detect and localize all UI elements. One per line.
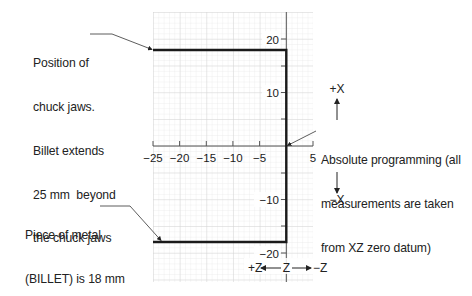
- note-line: chuck jaws.: [33, 100, 116, 115]
- z-tick-label: 5: [310, 152, 316, 164]
- note-line: measurements are taken: [321, 197, 461, 212]
- z-tick-label: −25: [143, 152, 163, 164]
- plus-z-label: +Z: [248, 261, 262, 275]
- note-line: Billet extends: [33, 144, 116, 159]
- z-tick-label: −20: [170, 152, 190, 164]
- plus-x-label: +X: [329, 82, 344, 96]
- billet-note: Piece of metal (BILLET) is 18 mm diamete…: [25, 199, 128, 296]
- z-tick-label: −15: [197, 152, 217, 164]
- note-line: Position of: [33, 56, 116, 71]
- absolute-programming-note: Absolute programming (all measurements a…: [321, 124, 461, 270]
- x-tick-label: 20: [266, 34, 279, 46]
- note-line: Absolute programming (all: [321, 153, 461, 168]
- z-tick-label: −10: [223, 152, 243, 164]
- x-tick-label: −10: [259, 194, 279, 206]
- z-label: Z: [283, 261, 290, 275]
- x-tick-label: 10: [266, 87, 279, 99]
- z-tick-label: −5: [253, 152, 266, 164]
- note-line: (BILLET) is 18 mm: [25, 272, 128, 287]
- note-line: from XZ zero datum): [321, 241, 461, 256]
- z-direction-indicator: +Z Z −Z: [244, 258, 327, 275]
- note-line: Piece of metal: [25, 228, 128, 243]
